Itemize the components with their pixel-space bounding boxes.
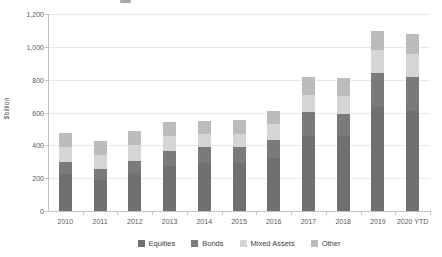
bar-segment-mixed-assets bbox=[337, 96, 350, 114]
y-tick-label: 200 bbox=[10, 175, 44, 182]
y-tick-label: 600 bbox=[10, 109, 44, 116]
bar-segment-mixed-assets bbox=[267, 124, 280, 140]
y-tick-mark bbox=[45, 211, 48, 212]
bar-segment-bonds bbox=[406, 77, 419, 111]
x-tick-label: 2011 bbox=[93, 218, 108, 225]
bar-segment-bonds bbox=[337, 114, 350, 136]
legend-item-equities: Equities bbox=[138, 239, 176, 248]
y-tick-label: 1,000 bbox=[10, 44, 44, 51]
x-tick-label: 2010 bbox=[58, 218, 74, 225]
x-tick-label: 2017 bbox=[301, 218, 317, 225]
legend-label: Equities bbox=[149, 239, 176, 248]
bar-segment-equities bbox=[302, 136, 315, 211]
bar-segment-other bbox=[371, 31, 384, 50]
x-tick-label: 2014 bbox=[196, 218, 212, 225]
bar-segment-bonds bbox=[163, 151, 176, 166]
bar-segment-equities bbox=[163, 166, 176, 211]
legend-label: Other bbox=[322, 239, 341, 248]
x-tick-mark bbox=[152, 212, 153, 215]
bar-segment-mixed-assets bbox=[94, 155, 107, 169]
y-tick-mark bbox=[45, 145, 48, 146]
bar-segment-other bbox=[406, 34, 419, 54]
bar-segment-other bbox=[198, 121, 211, 134]
x-tick-mark bbox=[361, 212, 362, 215]
bar-segment-equities bbox=[406, 111, 419, 211]
x-tick-label: 2015 bbox=[231, 218, 247, 225]
legend-swatch-icon bbox=[191, 240, 198, 247]
bar-segment-other bbox=[337, 78, 350, 96]
bar-segment-other bbox=[94, 141, 107, 155]
bar-segment-bonds bbox=[94, 169, 107, 180]
bar-segment-bonds bbox=[59, 162, 72, 174]
y-tick-label: 400 bbox=[10, 142, 44, 149]
bar-segment-bonds bbox=[267, 140, 280, 158]
bar-segment-equities bbox=[128, 173, 141, 211]
x-tick-label: 2012 bbox=[127, 218, 143, 225]
bar-segment-other bbox=[128, 131, 141, 146]
x-tick-mark bbox=[430, 212, 431, 215]
y-tick-mark bbox=[45, 178, 48, 179]
x-tick-label: 2019 bbox=[370, 218, 386, 225]
bar-segment-mixed-assets bbox=[233, 134, 246, 147]
legend-item-other: Other bbox=[311, 239, 341, 248]
cropped-title-fragment bbox=[120, 0, 131, 3]
bar-segment-equities bbox=[94, 180, 107, 211]
bar-segment-mixed-assets bbox=[302, 95, 315, 112]
bar-segment-other bbox=[267, 111, 280, 124]
x-tick-mark bbox=[187, 212, 188, 215]
legend-item-mixed-assets: Mixed Assets bbox=[240, 239, 295, 248]
x-tick-mark bbox=[117, 212, 118, 215]
bar-segment-bonds bbox=[302, 112, 315, 137]
x-tick-mark bbox=[395, 212, 396, 215]
y-tick-mark bbox=[45, 113, 48, 114]
y-axis-title: $billion bbox=[3, 89, 10, 129]
y-tick-mark bbox=[45, 80, 48, 81]
legend-swatch-icon bbox=[311, 240, 318, 247]
bar-segment-equities bbox=[267, 158, 280, 211]
y-axis-line bbox=[48, 14, 49, 211]
bar-segment-mixed-assets bbox=[59, 147, 72, 162]
x-tick-mark bbox=[326, 212, 327, 215]
y-tick-label: 800 bbox=[10, 76, 44, 83]
bar-segment-other bbox=[163, 122, 176, 137]
bar-segment-equities bbox=[198, 163, 211, 211]
x-tick-label: 2016 bbox=[266, 218, 282, 225]
bar-segment-bonds bbox=[128, 161, 141, 173]
y-tick-mark bbox=[45, 14, 48, 15]
y-tick-label: 1,200 bbox=[10, 11, 44, 18]
stacked-bar-chart: $billion EquitiesBondsMixed AssetsOther … bbox=[0, 0, 442, 257]
x-tick-label: 2013 bbox=[162, 218, 178, 225]
x-tick-label: 2020 YTD bbox=[397, 218, 428, 225]
x-tick-mark bbox=[291, 212, 292, 215]
bar-segment-bonds bbox=[233, 147, 246, 163]
bar-segment-equities bbox=[59, 174, 72, 211]
bar-segment-other bbox=[59, 133, 72, 147]
bar-segment-mixed-assets bbox=[128, 145, 141, 161]
legend-swatch-icon bbox=[240, 240, 247, 247]
legend-item-bonds: Bonds bbox=[191, 239, 223, 248]
gridline bbox=[48, 14, 430, 15]
x-tick-mark bbox=[83, 212, 84, 215]
bar-segment-equities bbox=[371, 107, 384, 211]
x-tick-label: 2018 bbox=[335, 218, 351, 225]
x-axis-line bbox=[48, 211, 431, 212]
legend-swatch-icon bbox=[138, 240, 145, 247]
bar-segment-equities bbox=[233, 163, 246, 211]
bar-segment-mixed-assets bbox=[163, 136, 176, 151]
legend-label: Mixed Assets bbox=[251, 239, 295, 248]
y-tick-label: 0 bbox=[10, 208, 44, 215]
bar-segment-other bbox=[302, 77, 315, 95]
bar-segment-mixed-assets bbox=[406, 54, 419, 78]
bar-segment-bonds bbox=[198, 147, 211, 163]
legend-label: Bonds bbox=[202, 239, 223, 248]
bar-segment-other bbox=[233, 120, 246, 134]
bar-segment-bonds bbox=[371, 73, 384, 107]
bar-segment-mixed-assets bbox=[371, 50, 384, 73]
bar-segment-mixed-assets bbox=[198, 134, 211, 147]
x-tick-mark bbox=[222, 212, 223, 215]
y-tick-mark bbox=[45, 47, 48, 48]
bar-segment-equities bbox=[337, 136, 350, 211]
x-tick-mark bbox=[256, 212, 257, 215]
chart-legend: EquitiesBondsMixed AssetsOther bbox=[48, 237, 430, 249]
